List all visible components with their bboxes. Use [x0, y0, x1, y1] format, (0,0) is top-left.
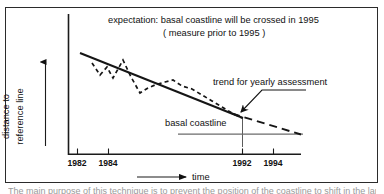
x-tick-label-1982: 1982	[67, 158, 86, 168]
x-tick-label-1984: 1984	[98, 158, 117, 168]
y-axis-label: distance to reference line	[14, 55, 44, 150]
expectation-title-line-2: ( measure prior to 1995 )	[163, 29, 265, 39]
trend-annotation-leader	[241, 90, 306, 112]
expectation-title-line-1: expectation: basal coastline will be cro…	[108, 16, 319, 26]
caption-partial: The main purpose of this technique is to…	[8, 186, 376, 194]
basal-coastline-label: basal coastline	[165, 119, 227, 129]
figure-root: expectation: basal coastline will be cro…	[0, 0, 384, 194]
x-tick-label-1994: 1994	[263, 158, 282, 168]
y-axis-label-line-1: distance to	[1, 69, 15, 164]
trend-annotation-label: trend for yearly assessment	[213, 78, 327, 88]
y-axis-label-line-2: reference line	[15, 69, 29, 164]
x-axis-label: time	[192, 173, 210, 183]
x-tick-label-1992: 1992	[232, 158, 251, 168]
